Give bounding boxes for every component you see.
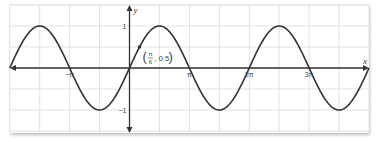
annotation-numerator: π [148,51,152,57]
x-tick-label: 3π [305,71,314,78]
annotation-paren-close: ) [168,49,172,64]
sine-chart: xy −ππ2π3π1−1 (π6, 0.5) [0,0,380,142]
x-tick-label: 2π [245,71,254,78]
x-tick-label: −π [65,71,74,78]
y-axis-arrow-down-icon [127,127,133,133]
x-tick-label: π [187,71,192,78]
annotation-y-value: , 0.5 [154,54,169,63]
annotation-denominator: 6 [149,59,153,65]
x-axis-label: x [362,56,367,66]
annotation-paren-open: ( [142,49,147,64]
y-axis-arrow-up-icon [127,5,133,11]
point-marker [138,45,142,49]
annotation: (π6, 0.5) [138,45,173,65]
y-tick-label: −1 [119,107,127,114]
y-tick-label: 1 [123,23,127,30]
y-axis-label: y [133,5,138,15]
